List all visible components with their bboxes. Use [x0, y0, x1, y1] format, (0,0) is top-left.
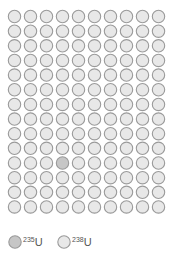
atom-u238 [104, 69, 116, 81]
atom-u238 [8, 84, 20, 96]
atom-u238 [88, 171, 100, 183]
atom-u238 [136, 54, 148, 66]
atom-u238 [8, 10, 20, 22]
atom-u238 [136, 186, 148, 198]
atom-u238 [88, 113, 100, 125]
atom-u238 [56, 69, 68, 81]
atom-u238 [40, 98, 52, 110]
atom-u238 [8, 157, 20, 169]
atom-u238 [136, 10, 148, 22]
atom-u238 [40, 40, 52, 52]
atom-u238 [136, 84, 148, 96]
uranium-isotope-grid-diagram [0, 0, 176, 262]
atom-u238 [152, 113, 164, 125]
atom-u238 [120, 186, 132, 198]
atom-u238 [40, 54, 52, 66]
atom-u238 [104, 54, 116, 66]
atom-u238 [24, 54, 36, 66]
atom-u238 [24, 40, 36, 52]
atom-u238 [88, 142, 100, 154]
atom-u238 [24, 113, 36, 125]
atom-u238 [104, 40, 116, 52]
atom-u238 [136, 128, 148, 140]
atom-u238 [152, 128, 164, 140]
atom-u238 [40, 171, 52, 183]
atom-u238 [152, 25, 164, 37]
atom-u238 [88, 98, 100, 110]
atom-u238 [120, 157, 132, 169]
atom-u238 [104, 10, 116, 22]
atom-u238 [40, 157, 52, 169]
atom-u238 [88, 84, 100, 96]
atom-u238 [72, 25, 84, 37]
atom-u238 [120, 84, 132, 96]
atom-u238 [8, 113, 20, 125]
atom-u238 [136, 171, 148, 183]
atom-u238 [8, 98, 20, 110]
atom-u238 [88, 128, 100, 140]
atom-u238 [152, 171, 164, 183]
atom-u235 [56, 157, 68, 169]
atom-u238 [88, 10, 100, 22]
legend-label-u238: 238U [72, 237, 92, 248]
atom-u238 [120, 69, 132, 81]
atom-u238 [104, 128, 116, 140]
atom-u238 [56, 171, 68, 183]
atom-u238 [152, 98, 164, 110]
atom-u238 [24, 128, 36, 140]
atom-u238 [8, 142, 20, 154]
atom-u238 [72, 54, 84, 66]
atom-u238 [88, 54, 100, 66]
atom-u238 [40, 142, 52, 154]
legend-label-u235: 235U [23, 237, 43, 248]
atom-u238 [56, 142, 68, 154]
atom-u238 [72, 186, 84, 198]
atom-u238 [8, 54, 20, 66]
atom-u238 [72, 98, 84, 110]
atom-u238 [120, 10, 132, 22]
atom-u238 [40, 113, 52, 125]
atom-u238 [72, 142, 84, 154]
atom-u238 [120, 25, 132, 37]
atom-u238 [24, 171, 36, 183]
atom-u238 [104, 25, 116, 37]
atom-u238 [72, 84, 84, 96]
atom-u238 [152, 10, 164, 22]
atom-u238 [40, 10, 52, 22]
atom-u238 [152, 54, 164, 66]
atom-u238 [8, 69, 20, 81]
atom-u238 [8, 128, 20, 140]
atom-u238 [136, 25, 148, 37]
atom-u238 [56, 113, 68, 125]
atom-u238 [56, 25, 68, 37]
atom-u238 [8, 186, 20, 198]
atom-u238 [152, 84, 164, 96]
atom-u238 [72, 113, 84, 125]
atom-u238 [120, 40, 132, 52]
atom-u238 [120, 171, 132, 183]
atom-u238 [152, 142, 164, 154]
atom-u238 [56, 201, 68, 213]
atom-u238 [72, 40, 84, 52]
atom-u238 [136, 113, 148, 125]
atom-u238 [88, 40, 100, 52]
atom-u238 [40, 128, 52, 140]
atom-u238 [120, 201, 132, 213]
atom-u238 [120, 142, 132, 154]
atom-u238 [56, 128, 68, 140]
atom-u238 [152, 69, 164, 81]
mass-number-238: 238 [72, 236, 84, 243]
atom-u238 [56, 10, 68, 22]
atom-u238 [72, 69, 84, 81]
atom-u238 [40, 186, 52, 198]
legend-swatch-u235 [9, 236, 21, 248]
atom-u238 [120, 113, 132, 125]
element-symbol-u: U [84, 236, 92, 248]
atom-u238 [88, 186, 100, 198]
atom-u238 [136, 201, 148, 213]
atom-u238 [152, 186, 164, 198]
atom-u238 [104, 84, 116, 96]
atom-u238 [24, 69, 36, 81]
atom-u238 [88, 25, 100, 37]
atom-u238 [136, 40, 148, 52]
